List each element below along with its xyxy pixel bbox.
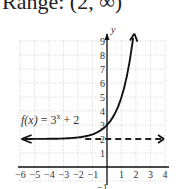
x-tick-label: −2 bbox=[73, 169, 84, 180]
x-tick-label: −1 bbox=[88, 169, 99, 180]
y-tick-label: 1 bbox=[100, 148, 105, 159]
exponential-graph: −6−5−4−3−2−11234−1123456789 f(x) = 3x + … bbox=[0, 0, 176, 189]
y-tick-label: 6 bbox=[100, 78, 105, 89]
y-axis-label: y bbox=[110, 24, 116, 35]
y-tick-label: 8 bbox=[100, 50, 105, 61]
x-tick-label: −6 bbox=[15, 169, 26, 180]
function-label: f(x) = 3x + 2 bbox=[21, 112, 79, 127]
y-tick-label: 5 bbox=[100, 92, 105, 103]
grid bbox=[20, 40, 165, 181]
x-tick-label: 4 bbox=[163, 169, 168, 180]
y-tick-label: −1 bbox=[97, 182, 108, 189]
x-tick-label: −5 bbox=[30, 169, 41, 180]
y-tick-label: 9 bbox=[100, 36, 105, 47]
x-tick-label: −4 bbox=[44, 169, 55, 180]
x-tick-label: −3 bbox=[59, 169, 70, 180]
y-tick-label: 7 bbox=[100, 64, 105, 75]
axes bbox=[18, 33, 169, 185]
x-tick-label: 3 bbox=[148, 169, 153, 180]
x-tick-label: 2 bbox=[134, 169, 139, 180]
y-tick-label: 4 bbox=[100, 106, 105, 117]
x-tick-label: 1 bbox=[119, 169, 124, 180]
